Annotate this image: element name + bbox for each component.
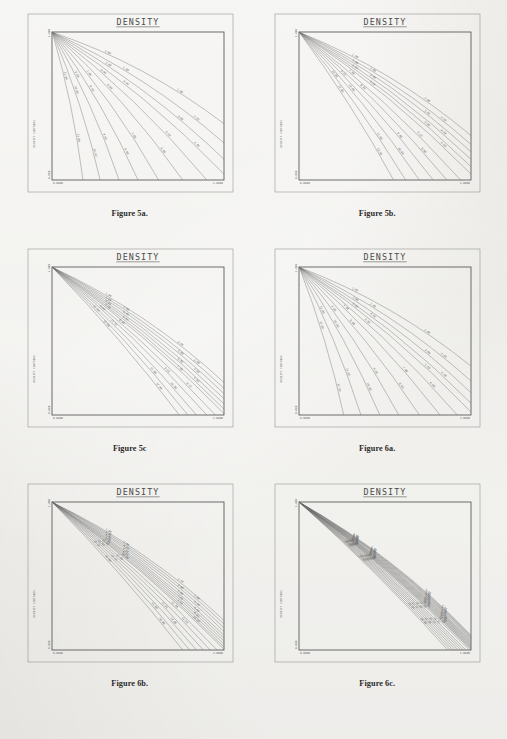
contour-label-text: 5.00	[424, 120, 432, 128]
contour-label: 5.00	[99, 68, 107, 76]
contour-label-text: 4.00	[440, 371, 448, 379]
chart-outer-frame	[28, 14, 233, 192]
contour-label-text: 3.00	[177, 349, 185, 356]
contour-label-text: 12.00	[180, 616, 189, 625]
y-axis-caption: DENSITY CONTOURS	[33, 590, 36, 618]
contour-label: 11.00	[376, 131, 384, 140]
contour-label: 12.00	[337, 84, 345, 93]
x-axis-max-label: 1.0000	[213, 652, 223, 655]
contour-line	[52, 267, 224, 413]
figure-cell: DENSITY1.001.002.002.003.003.004.004.005…	[254, 245, 502, 480]
contour-line	[52, 32, 206, 180]
figure-cell: DENSITY1.001.002.002.003.003.004.004.005…	[254, 480, 502, 715]
y-axis-caption: DENSITY CONTOURS	[33, 355, 36, 383]
contour-line	[300, 267, 399, 415]
figure-grid: DENSITY1.001.002.002.003.003.004.004.005…	[0, 0, 507, 739]
chart-canvas: DENSITY1.001.002.002.003.003.004.004.005…	[265, 10, 489, 208]
x-axis-min-label: 0.0000	[300, 417, 310, 420]
contour-label: 3.00	[177, 349, 185, 356]
y-axis-min-label: 0.000	[295, 170, 298, 179]
contour-label: 9.00	[340, 69, 348, 77]
figure-caption: Figure 5b.	[359, 209, 396, 218]
y-axis-caption: DENSITY CONTOURS	[280, 120, 283, 148]
contour-line	[52, 32, 138, 180]
contour-label: 11.00	[331, 69, 339, 78]
contour-label-text: 6.00	[106, 83, 114, 91]
contour-label-text: 11.00	[319, 305, 326, 314]
contour-line	[52, 267, 206, 415]
contour-label-text: 6.00	[440, 141, 448, 149]
figure-caption: Figure 6a.	[359, 444, 395, 453]
contour-label-text: 5.00	[424, 363, 432, 371]
contour-label-text: 10.00	[397, 146, 405, 155]
contour-label-text: 4.00	[193, 141, 201, 149]
contour-label: 10.00	[366, 382, 373, 391]
contour-label: 2.00	[193, 358, 201, 365]
y-axis-max-label: 1.000	[47, 29, 50, 38]
contour-line	[300, 32, 472, 174]
contour-label: 9.00	[163, 366, 171, 374]
contour-label: 12.00	[319, 321, 325, 330]
contour-label-text: 10.00	[109, 318, 118, 327]
contour-label-text: 10.00	[192, 615, 201, 624]
contour-label: 7.00	[416, 130, 424, 138]
contour-label: 8.00	[185, 381, 193, 389]
chart-canvas: DENSITY1.001.002.002.003.003.004.004.005…	[18, 245, 242, 443]
contour-label: 11.00	[76, 134, 81, 143]
contour-label: 13.00	[160, 601, 169, 610]
x-axis-min-label: 0.0000	[300, 182, 310, 185]
contour-line	[52, 32, 158, 180]
contour-label-text: 13.00	[160, 601, 169, 610]
x-axis-max-label: 1.0000	[460, 417, 470, 420]
contour-line	[52, 502, 217, 650]
contour-line	[300, 267, 472, 381]
figure-caption: Figure 5c	[113, 444, 147, 453]
contour-line	[52, 502, 203, 650]
contour-line	[52, 32, 100, 180]
contour-label: 10.00	[109, 318, 118, 327]
contour-label-text: 3.00	[176, 114, 184, 121]
y-axis-max-label: 1.000	[295, 29, 298, 38]
contour-label-text: 7.00	[176, 364, 184, 372]
contour-label-text: 5.00	[164, 130, 172, 138]
density-chart-1: DENSITY1.001.002.002.003.003.004.004.005…	[18, 10, 242, 208]
contour-label: 4.00	[440, 128, 448, 136]
contour-label: 11.00	[63, 71, 69, 80]
contour-label-text: 6.00	[429, 381, 437, 389]
contour-label: 5.00	[164, 130, 172, 138]
contour-label: 5.00	[176, 357, 184, 365]
density-chart-3: DENSITY1.001.002.002.003.003.004.004.005…	[18, 245, 242, 443]
contour-label: 8.00	[349, 318, 356, 326]
contour-line	[300, 32, 434, 180]
contour-line	[52, 267, 188, 415]
density-chart-6: DENSITY1.001.002.002.003.003.004.004.005…	[265, 480, 489, 678]
contour-label-text: 12.00	[337, 84, 345, 93]
contour-line	[52, 502, 189, 650]
contour-label-text: 11.00	[376, 131, 384, 140]
chart-outer-frame	[28, 249, 233, 427]
contour-line	[300, 32, 394, 180]
contour-label: 3.00	[176, 114, 184, 121]
contour-label: 12.00	[155, 382, 163, 391]
contour-label: 11.00	[319, 305, 326, 314]
contour-line	[300, 502, 448, 650]
contour-line	[300, 267, 420, 415]
contour-label-text: 12.00	[376, 147, 384, 156]
contour-label-text: 11.00	[345, 367, 352, 376]
contour-label-text: 8.00	[349, 318, 356, 326]
y-axis-caption: DENSITY CONTOURS	[280, 590, 283, 618]
contour-label: 7.00	[176, 364, 184, 372]
chart-canvas: DENSITY1.001.002.002.003.003.004.004.005…	[265, 245, 489, 443]
y-axis-caption: DENSITY CONTOURS	[280, 355, 283, 383]
contour-label-text: 6.00	[193, 376, 201, 384]
contour-label: 6.00	[429, 381, 437, 389]
contour-line	[52, 267, 179, 415]
contour-label: 5.00	[424, 363, 432, 371]
contour-label-text: 11.00	[76, 134, 81, 143]
contour-label-text: 4.00	[193, 367, 201, 375]
contour-label-text: 11.00	[63, 71, 69, 80]
contour-line	[300, 267, 458, 415]
contour-label-text: 10.00	[333, 319, 341, 328]
chart-outer-frame	[275, 249, 480, 427]
contour-label: 12.00	[376, 147, 384, 156]
